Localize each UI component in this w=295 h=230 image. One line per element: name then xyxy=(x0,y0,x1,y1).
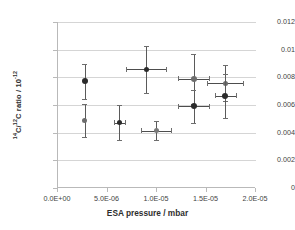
error-bar-cap xyxy=(223,65,228,66)
error-bar-cap xyxy=(171,128,172,133)
error-bar-cap xyxy=(141,128,142,133)
error-bar-cap xyxy=(125,120,126,125)
error-bar-cap xyxy=(223,118,228,119)
y-axis-title-mid2: C ratio / 10 xyxy=(14,79,23,119)
error-bar-cap xyxy=(166,67,167,72)
error-bar-cap xyxy=(114,120,115,125)
x-axis-title: ESA pressure / mbar xyxy=(0,208,295,218)
data-marker xyxy=(191,103,197,109)
y-axis-title-sup3: -12 xyxy=(14,71,23,79)
data-marker xyxy=(154,128,159,133)
error-bar-cap xyxy=(154,121,159,122)
x-tick-label: 2.0E-05 xyxy=(227,194,283,203)
error-bar-cap xyxy=(236,93,237,98)
error-bar-cap xyxy=(178,104,179,109)
data-marker xyxy=(144,67,149,72)
x-tick-label: 5.0E-06 xyxy=(79,194,135,203)
error-bar-cap xyxy=(126,67,127,72)
error-bar-cap xyxy=(117,105,122,106)
x-tick-mark xyxy=(156,188,157,192)
error-bar-cap xyxy=(207,81,208,86)
x-tick-mark xyxy=(107,188,108,192)
x-tick-mark xyxy=(206,188,207,192)
error-bar-cap xyxy=(191,90,196,91)
error-bar-cap xyxy=(191,123,196,124)
y-axis-title-sup1: 14 xyxy=(14,133,23,139)
data-marker xyxy=(222,93,228,99)
error-bar-cap xyxy=(191,54,196,55)
x-tick-label: 1.0E-05 xyxy=(128,194,184,203)
error-bar-cap xyxy=(144,46,149,47)
data-marker xyxy=(191,76,197,82)
error-bar-cap xyxy=(209,104,210,109)
chart-container: 00.0020.0040.0060.0080.010.012 14C/12C r… xyxy=(0,0,295,230)
data-marker xyxy=(82,118,87,123)
x-tick-label: 1.5E-05 xyxy=(178,194,234,203)
data-marker xyxy=(82,78,88,84)
data-marker xyxy=(117,120,122,125)
error-bar-cap xyxy=(82,137,87,138)
data-series xyxy=(57,22,255,188)
x-tick-label: 0.0E+00 xyxy=(29,194,85,203)
error-bar-cap xyxy=(215,93,216,98)
error-bar-cap xyxy=(178,76,179,81)
error-bar-cap xyxy=(243,81,244,86)
y-axis-title: 14C/12C ratio / 10-12 xyxy=(12,22,26,188)
y-axis-title-sup2: 12 xyxy=(14,119,23,125)
error-bar-cap xyxy=(117,140,122,141)
error-bar-cap xyxy=(82,64,87,65)
error-bar-cap xyxy=(144,93,149,94)
error-bar-cap xyxy=(209,76,210,81)
x-tick-mark xyxy=(255,188,256,192)
error-bar-cap xyxy=(154,140,159,141)
error-bar-cap xyxy=(82,104,87,105)
error-bar-cap xyxy=(82,99,87,100)
x-tick-mark xyxy=(57,188,58,192)
y-axis-title-mid1: C/ xyxy=(14,125,23,133)
error-bar-cap xyxy=(223,74,228,75)
